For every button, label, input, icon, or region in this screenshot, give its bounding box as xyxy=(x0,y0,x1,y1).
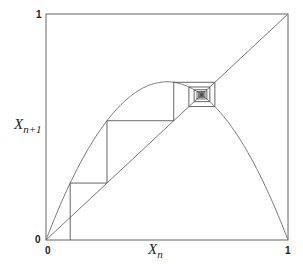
cobweb-plot xyxy=(0,0,303,272)
x-axis-label-sub: n xyxy=(157,248,163,260)
cobweb-path xyxy=(70,82,215,240)
y-axis-label-sub: n+1 xyxy=(23,123,41,135)
x-axis-label: Xn xyxy=(148,241,163,260)
y-tick-0: 0 xyxy=(35,234,41,245)
y-axis-label-main: X xyxy=(14,116,23,132)
x-axis-label-main: X xyxy=(148,241,157,257)
x-tick-1: 1 xyxy=(285,245,291,256)
y-axis-label: Xn+1 xyxy=(14,116,42,135)
identity-line xyxy=(46,14,288,240)
x-tick-0: 0 xyxy=(45,245,51,256)
y-tick-1: 1 xyxy=(36,9,42,20)
logistic-curve xyxy=(46,82,288,240)
